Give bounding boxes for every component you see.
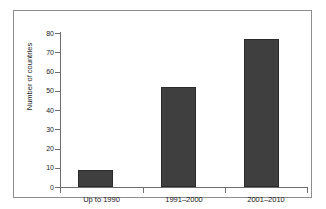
- y-tick-label-50: 50: [32, 87, 54, 94]
- y-tick-label-20: 20: [32, 145, 54, 152]
- y-tick-label-80: 80: [32, 30, 54, 37]
- x-tick-start: [60, 188, 61, 193]
- bar-2001-2010: [244, 39, 279, 187]
- plot-area: [61, 33, 307, 187]
- y-tick-label-40: 40: [32, 107, 54, 114]
- x-tick-label-1: 1991–2000: [143, 195, 225, 204]
- x-tick-label-0: Up to 1990: [60, 195, 143, 204]
- x-tick-boundary-1: [143, 188, 144, 193]
- chart-screenshot: Number of countries 0 10 20 30 40 50 60 …: [0, 0, 326, 209]
- y-tick-label-0: 0: [32, 184, 54, 191]
- x-tick-end: [307, 188, 308, 193]
- y-tick-label-60: 60: [32, 68, 54, 75]
- x-tick-label-2: 2001–2010: [225, 195, 307, 204]
- bar-up-to-1990: [78, 170, 113, 187]
- y-tick-label-10: 10: [32, 164, 54, 171]
- figure-frame: Number of countries 0 10 20 30 40 50 60 …: [13, 10, 312, 198]
- x-tick-boundary-2: [225, 188, 226, 193]
- x-axis-line: [60, 187, 308, 188]
- y-tick-label-70: 70: [32, 49, 54, 56]
- y-tick-label-30: 30: [32, 126, 54, 133]
- bar-1991-2000: [161, 87, 196, 187]
